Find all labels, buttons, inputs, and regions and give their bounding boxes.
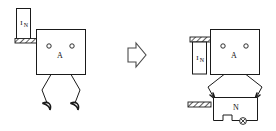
right-left-eye-icon	[221, 44, 225, 48]
left-head-label: A	[57, 51, 63, 60]
left-current-pillar: I N	[17, 9, 31, 40]
right-current-pillar: I N	[193, 42, 207, 74]
diagram-canvas: I N A	[0, 0, 276, 131]
right-module-label: N	[233, 103, 239, 112]
right-pillar-subscript: N	[200, 57, 205, 63]
right-figure-group: I N A N	[188, 30, 262, 125]
left-foot-left	[43, 102, 51, 110]
right-hatched-fixture-lower	[188, 102, 211, 107]
right-module-group: N	[214, 98, 258, 121]
left-leg-left	[42, 75, 51, 104]
right-right-eye-icon	[244, 44, 248, 48]
right-arms-group	[208, 75, 262, 100]
wheel-icon	[240, 118, 247, 125]
left-anchor-bar	[15, 39, 37, 44]
right-hatched-fixture-top	[190, 37, 213, 42]
left-eye-icon	[47, 44, 51, 48]
left-figure-group: I N A	[15, 9, 86, 111]
left-leg-right	[71, 75, 80, 104]
left-hatched-fixture	[15, 39, 37, 44]
right-eye-icon	[70, 44, 74, 48]
left-legs-group	[42, 75, 80, 104]
transformation-arrow-group	[128, 43, 146, 67]
right-head-label: A	[231, 51, 237, 60]
transformation-arrow	[128, 43, 146, 67]
left-pillar-subscript: N	[24, 22, 29, 28]
left-feet-group	[43, 102, 79, 110]
left-foot-right	[71, 102, 79, 110]
robot-transformation-diagram: I N A	[0, 0, 276, 131]
